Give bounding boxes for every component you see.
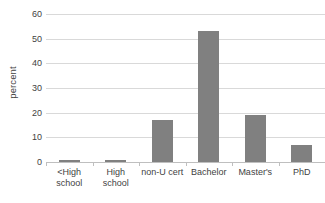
x-axis-category-label: High school: [93, 167, 140, 201]
bar: [152, 120, 173, 162]
bar-slot: [232, 14, 279, 162]
y-axis-tick-label: 10: [22, 133, 42, 142]
y-axis-title: percent: [0, 0, 24, 165]
bar: [291, 145, 312, 162]
bar-slot: [186, 14, 233, 162]
bar-slot: [46, 14, 93, 162]
x-axis-category-label: Bachelor: [186, 167, 233, 201]
plot-area: [46, 14, 325, 162]
x-axis-category-label: Master's: [232, 167, 279, 201]
x-axis-tick: [93, 162, 94, 166]
y-axis-tick-labels: 0102030405060: [22, 14, 42, 162]
x-axis-category-label: PhD: [279, 167, 325, 201]
x-axis-tick: [46, 162, 47, 166]
bars-layer: [46, 14, 325, 162]
x-axis-ticks: [46, 162, 325, 166]
x-axis-category-label: non-U cert: [139, 167, 186, 201]
y-axis-title-text: percent: [7, 66, 18, 98]
bar-chart: percent 0102030405060 <High schoolHigh s…: [0, 0, 325, 203]
x-axis-tick: [279, 162, 280, 166]
bar-slot: [139, 14, 186, 162]
x-axis-tick: [186, 162, 187, 166]
bar: [198, 31, 219, 162]
y-axis-tick-label: 20: [22, 108, 42, 117]
y-axis-tick-label: 50: [22, 34, 42, 43]
bar: [245, 115, 266, 162]
y-axis-tick-label: 0: [22, 158, 42, 167]
y-axis-tick-label: 40: [22, 59, 42, 68]
y-axis-tick-label: 30: [22, 84, 42, 93]
x-axis-category-label: <High school: [46, 167, 93, 201]
bar-slot: [279, 14, 325, 162]
x-axis-tick: [232, 162, 233, 166]
x-axis-tick: [139, 162, 140, 166]
x-axis-category-labels: <High schoolHigh schoolnon-U certBachelo…: [46, 167, 325, 201]
bar-slot: [93, 14, 140, 162]
y-axis-tick-label: 60: [22, 10, 42, 19]
